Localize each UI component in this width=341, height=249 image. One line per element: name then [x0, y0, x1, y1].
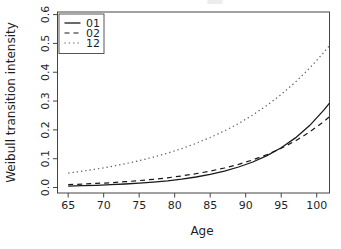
x-tick-label: 90 — [239, 199, 253, 212]
y-tick-label: 0.0 — [39, 179, 52, 197]
x-tick-label: 70 — [97, 199, 111, 212]
y-tick-label: 0.2 — [39, 121, 52, 139]
cropped-title-remnant — [207, 0, 223, 4]
curve-12 — [68, 45, 329, 173]
x-tick-label: 75 — [132, 199, 146, 212]
y-tick-label: 0.6 — [39, 6, 52, 24]
line-chart: 657075808590951000.00.10.20.30.40.50.6 0… — [0, 0, 341, 249]
x-tick-label: 100 — [306, 199, 327, 212]
curve-01 — [68, 103, 329, 186]
curves-group — [68, 45, 329, 186]
y-tick-label: 0.4 — [39, 63, 52, 81]
legend-group: 010212 — [59, 14, 104, 54]
x-tick-label: 85 — [203, 199, 217, 212]
curve-02 — [68, 117, 329, 185]
y-tick-label: 0.3 — [39, 92, 52, 110]
x-tick-label: 95 — [274, 199, 288, 212]
x-tick-label: 65 — [61, 199, 75, 212]
x-axis-label: Age — [190, 224, 213, 238]
y-tick-label: 0.5 — [39, 35, 52, 53]
weibull-transition-intensity-figure: 657075808590951000.00.10.20.30.40.50.6 0… — [0, 0, 341, 249]
x-tick-label: 80 — [168, 199, 182, 212]
y-tick-label: 0.1 — [39, 150, 52, 168]
legend-label-12: 12 — [86, 37, 100, 50]
y-axis-label: Weibull transition intensity — [4, 22, 18, 183]
